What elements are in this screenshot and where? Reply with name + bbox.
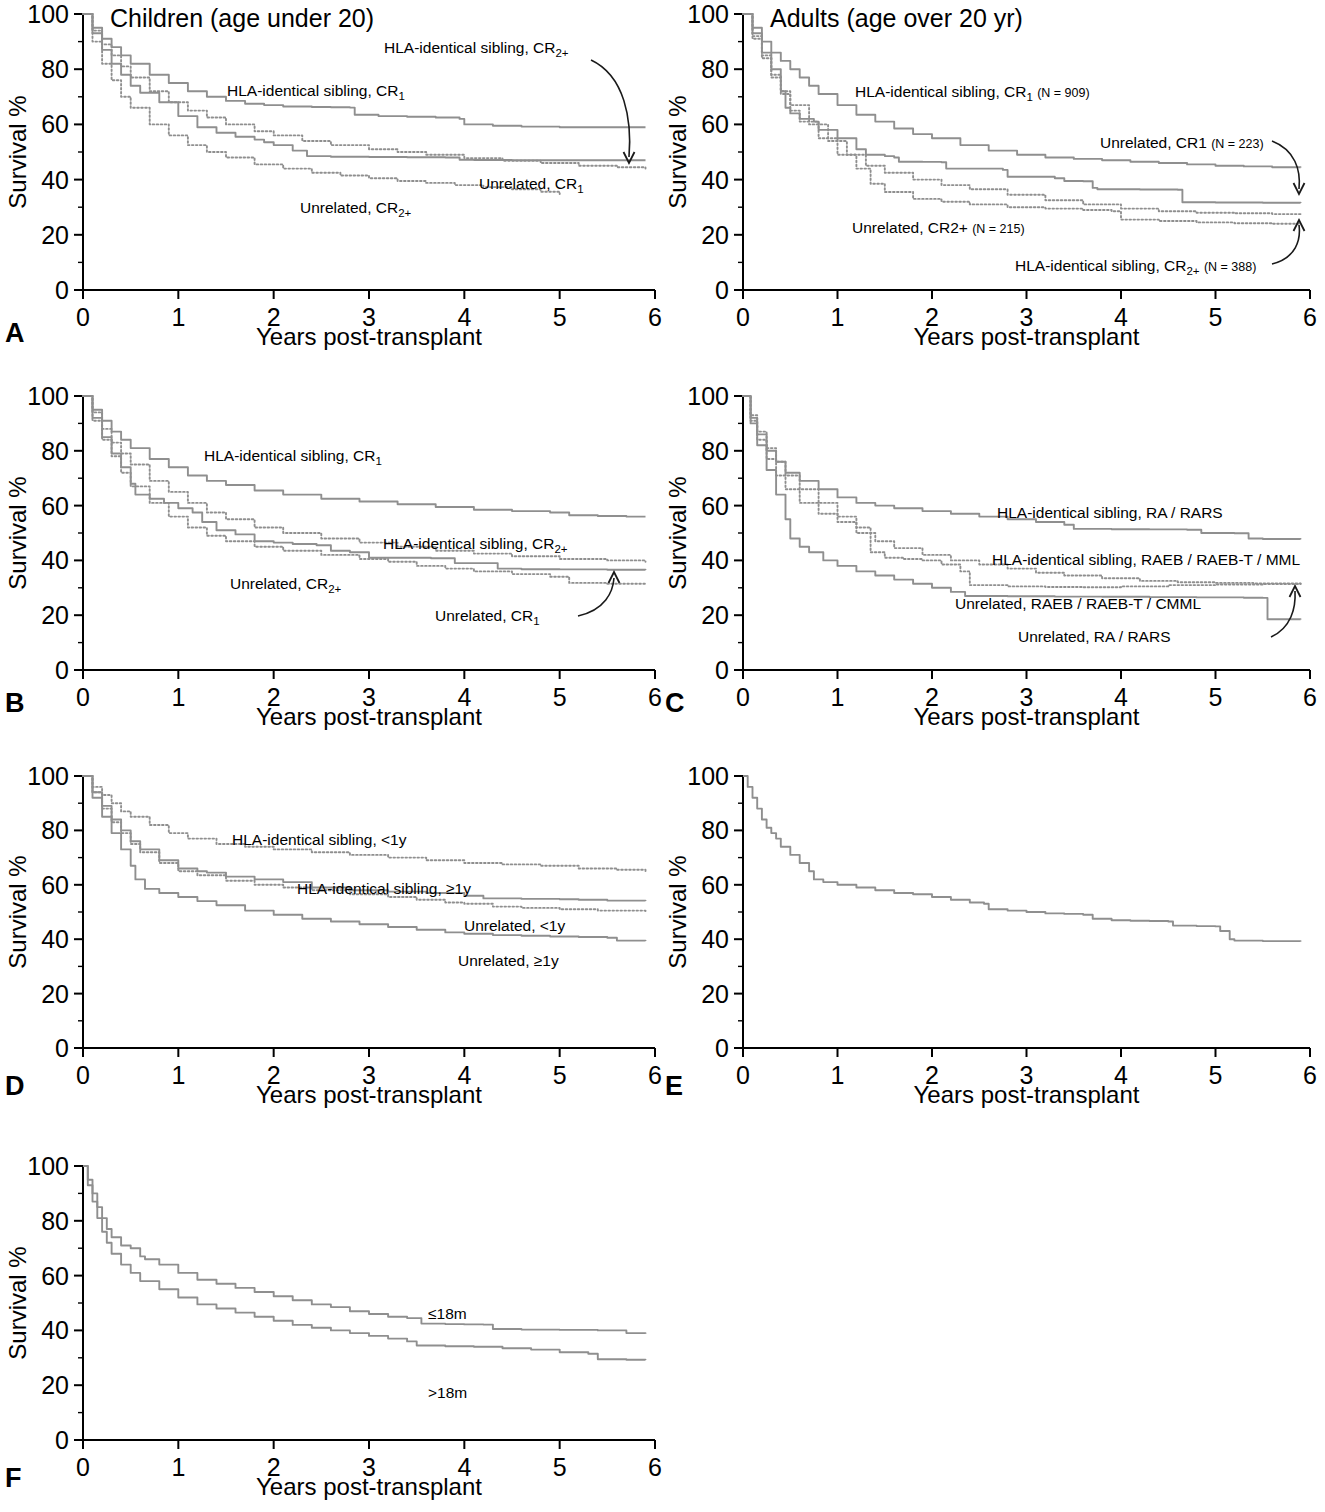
panel-e: 0204060801000123456Years post-transplant…	[660, 744, 1325, 1119]
y-tick-label: 60	[41, 492, 69, 520]
y-tick-label: 20	[41, 1371, 69, 1399]
y-tick-label: 80	[41, 55, 69, 83]
plot-area-a-adults: 0204060801000123456Years post-transplant…	[664, 0, 1317, 350]
chart-e: 0204060801000123456Years post-transplant…	[660, 744, 1325, 1119]
x-axis-title: Years post-transplant	[256, 1473, 482, 1500]
y-tick-label: 0	[715, 1034, 729, 1062]
y-tick-label: 100	[687, 762, 729, 790]
y-tick-label: 60	[41, 871, 69, 899]
y-tick-label: 40	[41, 925, 69, 953]
x-axis-title: Years post-transplant	[914, 1081, 1140, 1108]
plot-area-a-children: 0204060801000123456Years post-transplant…	[4, 0, 662, 350]
y-tick-label: 40	[701, 546, 729, 574]
x-tick-label: 1	[831, 1061, 845, 1089]
survival-curve	[743, 776, 1301, 941]
x-tick-label: 5	[553, 1061, 567, 1089]
y-tick-label: 80	[701, 55, 729, 83]
curve-annotation-label: Unrelated, ≥1y	[458, 952, 559, 969]
y-tick-label: 100	[27, 382, 69, 410]
panel-f: 0204060801000123456Years post-transplant…	[0, 1128, 680, 1512]
y-tick-label: 20	[41, 221, 69, 249]
y-tick-label: 100	[27, 1152, 69, 1180]
chart-f: 0204060801000123456Years post-transplant…	[0, 1128, 680, 1512]
annotation-arrow	[1271, 591, 1295, 637]
curve-annotation-label: HLA-identical sibling, RA / RARS	[997, 504, 1223, 521]
annotation-arrow	[1272, 225, 1299, 264]
x-tick-label: 0	[736, 1061, 750, 1089]
y-tick-label: 0	[55, 656, 69, 684]
curve-annotation-label: HLA-identical sibling, <1y	[232, 831, 407, 848]
survival-curve	[83, 396, 646, 562]
x-tick-label: 1	[831, 683, 845, 711]
chart-b: 0204060801000123456Years post-transplant…	[0, 378, 680, 736]
panel-a-children: 0204060801000123456Years post-transplant…	[0, 0, 680, 370]
x-tick-label: 1	[171, 1453, 185, 1481]
survival-curve	[743, 14, 1301, 224]
y-tick-label: 100	[687, 382, 729, 410]
x-tick-label: 5	[1209, 303, 1223, 331]
y-tick-label: 0	[715, 276, 729, 304]
y-tick-label: 0	[55, 276, 69, 304]
curve-annotation-label: ≤18m	[428, 1305, 467, 1322]
curve-annotation-label: HLA-identical sibling, CR1	[227, 82, 405, 102]
x-tick-label: 0	[76, 683, 90, 711]
survival-curve	[743, 14, 1301, 214]
y-tick-label: 100	[27, 0, 69, 28]
y-tick-label: 80	[41, 816, 69, 844]
plot-area-f: 0204060801000123456Years post-transplant…	[4, 1152, 662, 1500]
y-tick-label: 0	[55, 1034, 69, 1062]
x-tick-label: 1	[171, 303, 185, 331]
chart-a-children: 0204060801000123456Years post-transplant…	[0, 0, 680, 370]
y-tick-label: 20	[701, 980, 729, 1008]
y-tick-label: 20	[41, 980, 69, 1008]
curve-annotation-label: HLA-identical sibling, CR1 (N = 909)	[855, 83, 1090, 103]
x-tick-label: 0	[736, 303, 750, 331]
curve-annotation-label: HLA-identical sibling, CR2+	[384, 39, 569, 59]
y-tick-label: 80	[41, 437, 69, 465]
y-tick-label: 40	[41, 546, 69, 574]
y-tick-label: 60	[41, 110, 69, 138]
x-tick-label: 6	[648, 1453, 662, 1481]
survival-curve	[83, 776, 646, 871]
panel-letter-f: F	[5, 1463, 22, 1494]
y-tick-label: 40	[701, 166, 729, 194]
x-tick-label: 6	[1303, 303, 1317, 331]
x-tick-label: 0	[76, 303, 90, 331]
curve-annotation-label: HLA-identical sibling, ≥1y	[297, 880, 471, 897]
panel-letter-d: D	[5, 1071, 25, 1102]
curve-annotation-label: HLA-identical sibling, CR2+ (N = 388)	[1015, 257, 1256, 277]
x-tick-label: 5	[553, 1453, 567, 1481]
x-tick-label: 5	[553, 683, 567, 711]
x-axis-title: Years post-transplant	[914, 703, 1140, 730]
y-tick-label: 80	[701, 437, 729, 465]
x-axis-title: Years post-transplant	[256, 1081, 482, 1108]
survival-curve	[83, 1166, 646, 1334]
y-tick-label: 40	[41, 166, 69, 194]
y-tick-label: 60	[701, 110, 729, 138]
x-tick-label: 5	[1209, 683, 1223, 711]
curve-annotation-label: Unrelated, CR1	[479, 175, 584, 195]
chart-a-adults: 0204060801000123456Years post-transplant…	[660, 0, 1325, 370]
y-tick-label: 60	[701, 492, 729, 520]
curve-annotation-label: Unrelated, <1y	[464, 917, 565, 934]
curve-annotation-label: Unrelated, CR2+	[300, 199, 412, 219]
x-tick-label: 1	[171, 683, 185, 711]
x-tick-label: 1	[831, 303, 845, 331]
plot-area-d: 0204060801000123456Years post-transplant…	[4, 762, 662, 1108]
plot-area-b: 0204060801000123456Years post-transplant…	[4, 382, 662, 730]
x-tick-label: 1	[171, 1061, 185, 1089]
curve-annotation-label: Unrelated, CR1	[435, 607, 540, 627]
y-axis-title: Survival %	[4, 855, 31, 968]
panel-d: 0204060801000123456Years post-transplant…	[0, 744, 680, 1119]
annotation-arrow	[591, 60, 630, 157]
curve-annotation-label: Unrelated, CR2+ (N = 215)	[852, 219, 1025, 236]
panel-title-children: Children (age under 20)	[110, 4, 374, 32]
panel-c: 0204060801000123456Years post-transplant…	[660, 378, 1325, 736]
survival-curve	[83, 396, 646, 584]
y-axis-title: Survival %	[664, 855, 691, 968]
y-axis-title: Survival %	[4, 95, 31, 208]
x-tick-label: 6	[1303, 1061, 1317, 1089]
curve-annotation-label: HLA-identical sibling, CR2+	[383, 535, 568, 555]
plot-area-c: 0204060801000123456Years post-transplant…	[664, 382, 1317, 730]
y-tick-label: 40	[41, 1316, 69, 1344]
